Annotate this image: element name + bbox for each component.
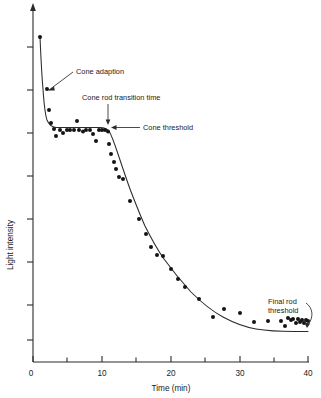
data-point bbox=[144, 232, 148, 236]
data-point bbox=[47, 108, 51, 112]
dark-adaptation-chart: Light intensity 0 10 20 30 40 Time (min) bbox=[0, 0, 321, 398]
x-tick-label-0: 0 bbox=[29, 369, 34, 378]
data-point bbox=[252, 320, 256, 324]
y-axis-label: Light intensity bbox=[6, 219, 15, 270]
data-point bbox=[294, 321, 298, 325]
chart-background bbox=[0, 0, 321, 398]
chart-svg: Light intensity 0 10 20 30 40 Time (min) bbox=[0, 0, 321, 398]
annotation-label-cone-adaption: Cone adaption bbox=[76, 67, 124, 76]
data-point bbox=[106, 130, 110, 134]
data-point bbox=[109, 152, 113, 156]
data-point bbox=[197, 297, 201, 301]
data-point bbox=[52, 127, 56, 131]
annotation-label-cone-rod-transition-time: Cone rod transition time bbox=[82, 93, 160, 102]
data-point bbox=[149, 245, 153, 249]
data-point bbox=[88, 128, 92, 132]
data-point bbox=[117, 175, 121, 179]
data-point bbox=[38, 35, 42, 39]
data-point bbox=[211, 315, 215, 319]
data-point bbox=[183, 285, 187, 289]
data-point bbox=[266, 319, 270, 323]
annotation-label-final-rod-threshold-line2: threshold bbox=[268, 306, 298, 315]
data-point bbox=[54, 134, 58, 138]
data-point bbox=[279, 319, 283, 323]
data-point bbox=[94, 139, 98, 143]
data-point bbox=[68, 128, 72, 132]
data-point bbox=[114, 167, 118, 171]
data-point bbox=[84, 128, 88, 132]
data-point bbox=[238, 311, 242, 315]
data-point bbox=[222, 307, 226, 311]
annotation-label-final-rod-threshold-line1: Final rod bbox=[268, 297, 297, 306]
data-point bbox=[75, 119, 79, 123]
data-point bbox=[112, 160, 116, 164]
data-point bbox=[107, 142, 111, 146]
data-point bbox=[137, 217, 141, 221]
data-point bbox=[77, 128, 81, 132]
data-point bbox=[161, 254, 165, 258]
x-tick-label-20: 20 bbox=[166, 369, 176, 378]
data-point bbox=[176, 277, 180, 281]
data-point bbox=[291, 317, 295, 321]
x-tick-label-30: 30 bbox=[235, 369, 245, 378]
data-point bbox=[128, 199, 132, 203]
data-point bbox=[155, 253, 159, 257]
data-point bbox=[283, 324, 287, 328]
data-point bbox=[91, 132, 95, 136]
data-point bbox=[169, 267, 173, 271]
annotation-label-cone-threshold: Cone threshold bbox=[143, 123, 193, 132]
x-axis-label: Time (min) bbox=[152, 384, 191, 393]
data-point bbox=[49, 121, 53, 125]
data-point bbox=[121, 177, 125, 181]
data-point bbox=[61, 131, 65, 135]
data-point bbox=[58, 128, 62, 132]
x-tick-label-10: 10 bbox=[97, 369, 107, 378]
data-point bbox=[72, 128, 76, 132]
x-tick-label-40: 40 bbox=[303, 369, 313, 378]
